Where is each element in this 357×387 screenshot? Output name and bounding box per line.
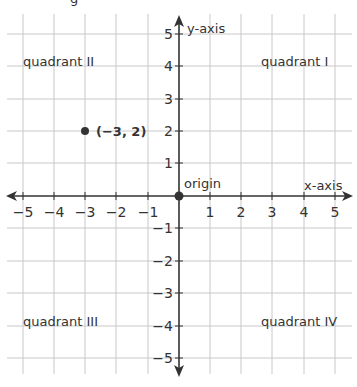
x-tick-label: 5 bbox=[331, 204, 340, 220]
x-tick-label: −2 bbox=[106, 204, 127, 220]
x-tick-labels: −5 −4 −3 −2 −1 1 2 3 4 5 bbox=[13, 204, 340, 220]
x-tick-label: 2 bbox=[237, 204, 246, 220]
y-tick-label: 1 bbox=[164, 155, 173, 171]
y-tick-label: 2 bbox=[164, 123, 173, 139]
coordinate-plane: g bbox=[0, 0, 357, 387]
y-tick-label: 5 bbox=[164, 26, 173, 42]
quadrant-3-label: quadrant III bbox=[23, 314, 98, 329]
y-tick-label: 3 bbox=[164, 91, 173, 107]
origin-label: origin bbox=[184, 176, 221, 191]
y-tick-label: −5 bbox=[152, 350, 173, 366]
y-tick-label: −3 bbox=[152, 285, 173, 301]
y-tick-label: −4 bbox=[152, 318, 173, 334]
y-tick-label: −1 bbox=[152, 220, 173, 236]
x-tick-label: −5 bbox=[13, 204, 34, 220]
y-axis-label: y-axis bbox=[187, 21, 225, 36]
y-tick-label: 4 bbox=[164, 58, 173, 74]
x-tick-label: −4 bbox=[44, 204, 65, 220]
y-tick-label: −2 bbox=[152, 253, 173, 269]
x-tick-label: 4 bbox=[300, 204, 309, 220]
quadrant-1-label: quadrant I bbox=[261, 54, 328, 69]
x-axis-label: x-axis bbox=[304, 178, 343, 193]
quadrant-2-label: quadrant II bbox=[23, 54, 94, 69]
plotted-point bbox=[81, 127, 89, 135]
origin-point bbox=[175, 192, 184, 201]
title-fragment: g bbox=[70, 0, 78, 6]
point-label: (−3, 2) bbox=[96, 124, 146, 139]
quadrant-4-label: quadrant IV bbox=[261, 314, 337, 329]
x-tick-label: 3 bbox=[268, 204, 277, 220]
x-tick-label: −1 bbox=[138, 204, 159, 220]
x-tick-label: −3 bbox=[75, 204, 96, 220]
x-tick-label: 1 bbox=[206, 204, 215, 220]
